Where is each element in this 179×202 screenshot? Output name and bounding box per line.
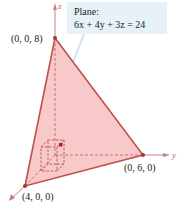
x-intercept-label: (4, 0, 0): [22, 191, 54, 202]
point-marker: [59, 143, 63, 147]
y-intercept-label: (0, 6, 0): [124, 162, 156, 174]
callout-pointer: [73, 34, 84, 62]
callout-equation: 6x + 4y + 3z = 24: [74, 19, 145, 30]
y-axis-label: y: [171, 150, 176, 160]
z-intercept-label: (0, 0, 8): [11, 33, 43, 45]
callout-title: Plane:: [74, 6, 99, 17]
y-arrow-icon: [163, 153, 170, 157]
x-arrow-icon: [9, 194, 15, 201]
z-arrow-icon: [53, 3, 57, 10]
vertex-x: [23, 184, 27, 188]
plane-diagram: Plane: 6x + 4y + 3z = 24 z y (0, 0, 8) (…: [0, 0, 179, 202]
vertex-z: [53, 36, 57, 40]
z-axis-label: z: [57, 1, 62, 11]
vertex-y: [141, 153, 145, 157]
